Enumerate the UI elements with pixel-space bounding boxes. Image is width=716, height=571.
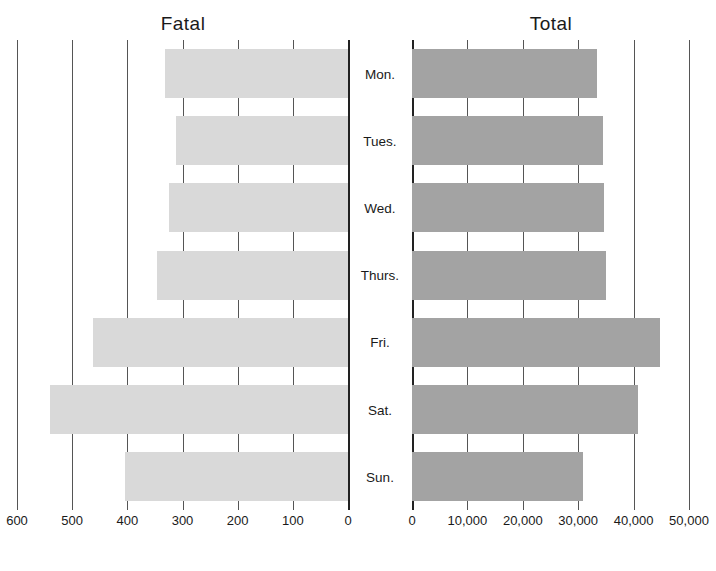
fatal-tick-label: 600 [6,513,28,528]
day-label: Thurs. [348,268,412,283]
fatal-tick-label: 100 [282,513,304,528]
fatal-tick-label: 500 [61,513,83,528]
day-label: Mon. [348,66,412,81]
fatal-gridline [127,40,128,510]
total-bar [412,116,603,165]
total-bar [412,49,597,98]
day-label: Fri. [348,335,412,350]
fatal-bar [157,251,348,300]
day-label: Wed. [348,200,412,215]
total-bar [412,452,583,501]
total-tick-label: 40,000 [614,513,654,528]
total-bar [412,251,606,300]
total-bar [412,385,638,434]
total-tick-label: 0 [408,513,415,528]
day-label: Sun. [348,469,412,484]
fatal-tick-label: 200 [227,513,249,528]
fatal-gridline [17,40,18,510]
total-gridline [634,40,635,510]
fatal-panel-title: Fatal [161,13,206,35]
total-gridline [689,40,690,510]
fatal-bar [165,49,348,98]
fatal-bar [169,183,348,232]
fatal-tick-label: 0 [344,513,351,528]
day-label: Sat. [348,402,412,417]
day-label: Tues. [348,133,412,148]
fatal-tick-label: 300 [172,513,194,528]
fatal-bar [176,116,348,165]
total-tick-label: 30,000 [558,513,598,528]
fatal-bar [50,385,348,434]
total-tick-label: 10,000 [448,513,488,528]
fatal-bar [93,318,348,367]
total-bar [412,183,604,232]
fatal-tick-label: 400 [116,513,138,528]
total-tick-label: 20,000 [503,513,543,528]
total-panel-title: Total [530,13,573,35]
fatal-bar [125,452,348,501]
fatal-gridline [72,40,73,510]
total-bar [412,318,660,367]
total-tick-label: 50,000 [669,513,709,528]
